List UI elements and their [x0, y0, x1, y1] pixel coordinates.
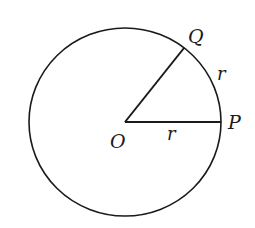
label-q: Q [188, 25, 204, 47]
label-p: P [227, 111, 242, 133]
circle-diagram: O r P Q r [0, 0, 255, 228]
label-radius-r: r [167, 123, 177, 144]
label-o: O [110, 130, 126, 152]
label-arc-r: r [217, 63, 227, 84]
radius-oq [125, 48, 184, 122]
